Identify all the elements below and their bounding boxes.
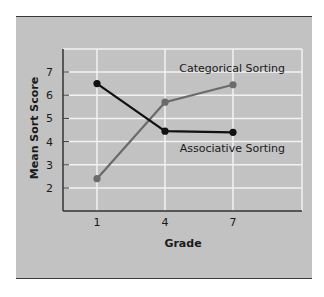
data-point <box>161 128 168 135</box>
data-point <box>229 129 236 136</box>
series-label-categorical: Categorical Sorting <box>179 62 285 75</box>
series-label-associative: Associative Sorting <box>180 142 285 155</box>
x-tick-label: 4 <box>162 216 169 229</box>
y-tick-label: 3 <box>46 159 53 172</box>
y-axis-label: Mean Sort Score <box>28 77 41 179</box>
y-tick-label: 5 <box>46 112 53 125</box>
y-tick-label: 6 <box>46 89 53 102</box>
data-point <box>93 80 100 87</box>
data-point <box>229 81 236 88</box>
axes: 234567147 <box>46 49 302 229</box>
x-axis-label: Grade <box>164 237 201 250</box>
y-tick-label: 7 <box>46 66 53 79</box>
x-tick-label: 7 <box>230 216 237 229</box>
y-tick-label: 2 <box>46 182 53 195</box>
data-point <box>93 175 100 182</box>
x-tick-label: 1 <box>94 216 101 229</box>
data-point <box>161 99 168 106</box>
labels: Categorical SortingAssociative SortingGr… <box>28 62 285 250</box>
line-chart: 234567147 Categorical SortingAssociative… <box>0 0 324 297</box>
y-tick-label: 4 <box>46 136 53 149</box>
